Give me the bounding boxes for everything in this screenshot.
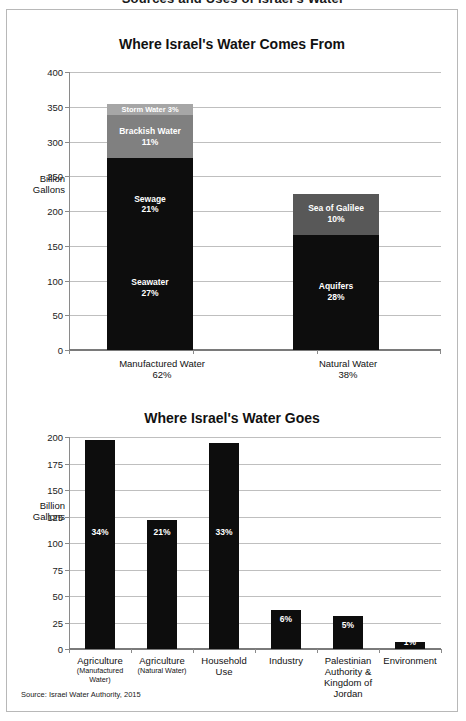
- chart2-bar[interactable]: 5%: [333, 616, 363, 649]
- gridline: [69, 437, 441, 438]
- chart2-xcat-line: Household: [193, 655, 255, 666]
- chart2-bar[interactable]: 6%: [271, 610, 301, 649]
- segment-sewage-pct: 21%: [107, 204, 193, 214]
- chart2-xcat-line: (Manufactured Water): [69, 666, 131, 684]
- chart1-bar-manufactured[interactable]: Seawater 27% Sewage 21% Brackish Water 1…: [107, 104, 193, 350]
- chart1-xcat-manufactured-name: Manufactured Water: [69, 358, 255, 369]
- page-title: Sources and Uses of Israel's Water: [0, 0, 466, 6]
- chart1-xcat-natural-name: Natural Water: [255, 358, 441, 369]
- ytick-label: 350: [47, 101, 63, 112]
- ytick-label: 50: [52, 591, 63, 602]
- chart1-xtick: [69, 350, 70, 354]
- chart2-xtick: [255, 649, 256, 653]
- segment-sewage-label-group: Sewage 21%: [107, 194, 193, 214]
- segment-storm-label: Storm Water 3%: [121, 105, 178, 114]
- chart1-title: Where Israel's Water Comes From: [7, 36, 457, 52]
- ytick-label: 0: [58, 644, 63, 655]
- chart2-bar-value-label: 21%: [147, 527, 177, 537]
- segment-seawater-pct: 27%: [141, 288, 158, 299]
- gridline: [69, 490, 441, 491]
- chart2-bar-value-label: 1%: [395, 637, 425, 647]
- segment-aquifers-pct: 28%: [327, 292, 344, 303]
- ytick-label: 75: [52, 564, 63, 575]
- segment-seawater[interactable]: Seawater 27%: [107, 158, 193, 350]
- chart2-xcat-line: Industry: [255, 655, 317, 666]
- chart2-bar-value-label: 33%: [209, 527, 239, 537]
- chart2-xtick: [193, 649, 194, 653]
- ytick-label: 300: [47, 136, 63, 147]
- segment-galilee-pct: 10%: [327, 214, 344, 225]
- source-note: Source: Israel Water Authority, 2015: [21, 690, 141, 699]
- chart2-xcat-line: Agriculture: [131, 655, 193, 666]
- segment-sea-of-galilee[interactable]: Sea of Galilee 10%: [293, 194, 379, 234]
- ytick-label: 200: [47, 432, 63, 443]
- gridline: [69, 570, 441, 571]
- chart1-xcat-manufactured-pct: 62%: [69, 369, 255, 380]
- ytick-label: 250: [47, 171, 63, 182]
- chart2-y-axis: [69, 437, 70, 649]
- chart2-yaxis-title-line1: Billion: [40, 500, 65, 511]
- ytick-label: 150: [47, 240, 63, 251]
- ytick-label: 200: [47, 206, 63, 217]
- ytick-label: 125: [47, 511, 63, 522]
- segment-storm-water[interactable]: Storm Water 3%: [107, 104, 193, 115]
- chart2-xcat-line: Palestinian: [317, 655, 379, 666]
- chart2-bar-value-label: 5%: [333, 620, 363, 630]
- gridline: [69, 72, 441, 73]
- segment-aquifers-label: Aquifers: [319, 281, 353, 292]
- chart1-xtick: [440, 350, 441, 354]
- figure-panel: Where Israel's Water Comes From Billion …: [6, 9, 458, 712]
- segment-aquifers[interactable]: Aquifers 28%: [293, 235, 379, 350]
- chart1-xcat-natural: Natural Water 38%: [255, 358, 441, 380]
- segment-sewage-label: Sewage: [107, 194, 193, 204]
- chart2-xtick: [131, 649, 132, 653]
- gridline: [69, 596, 441, 597]
- chart2-xtick: [441, 649, 442, 653]
- ytick-label: 25: [52, 617, 63, 628]
- chart2-bar[interactable]: 1%: [395, 642, 425, 649]
- gridline: [69, 464, 441, 465]
- chart2-bar-value-label: 34%: [85, 527, 115, 537]
- chart2-xtick: [69, 649, 70, 653]
- chart1-y-axis: [69, 72, 70, 350]
- chart1-plot-area: 050100150200250300350400 Seawater 27% Se…: [69, 72, 441, 350]
- chart2-bar-value-label: 6%: [271, 614, 301, 624]
- chart1-xtick: [193, 350, 194, 354]
- chart2-xcat: Environment: [379, 655, 441, 666]
- chart1-xcat-manufactured: Manufactured Water 62%: [69, 358, 255, 380]
- chart1-bar-natural[interactable]: Aquifers 28% Sea of Galilee 10%: [293, 194, 379, 350]
- chart1-xcat-natural-pct: 38%: [255, 369, 441, 380]
- chart2-xcat: Agriculture(Natural Water): [131, 655, 193, 675]
- segment-brackish-water[interactable]: Brackish Water 11%: [107, 115, 193, 158]
- chart2-xcat-line: Jordan: [317, 688, 379, 699]
- segment-brackish-label: Brackish Water: [119, 126, 181, 137]
- segment-seawater-label: Seawater: [131, 277, 168, 288]
- chart2-bar[interactable]: 33%: [209, 443, 239, 649]
- segment-galilee-label: Sea of Galilee: [308, 203, 364, 214]
- chart1-yaxis-title-line2: Gallons: [33, 184, 65, 195]
- gridline: [69, 543, 441, 544]
- chart2-title: Where Israel's Water Goes: [7, 410, 457, 426]
- chart2-xtick: [379, 649, 380, 653]
- chart2-xcat-line: Agriculture: [69, 655, 131, 666]
- gridline: [69, 517, 441, 518]
- chart2-plot-area: 0255075100125150175200 34%21%33%6%5%1%: [69, 437, 441, 649]
- gridline: [69, 623, 441, 624]
- chart2-xcat-line: Kingdom of: [317, 677, 379, 688]
- segment-brackish-pct: 11%: [142, 137, 159, 148]
- chart2-xcat-line: (Natural Water): [131, 666, 193, 675]
- chart2-bar[interactable]: 34%: [85, 440, 115, 649]
- ytick-label: 50: [52, 310, 63, 321]
- ytick-label: 0: [58, 345, 63, 356]
- chart2-xcat: HouseholdUse: [193, 655, 255, 677]
- ytick-label: 100: [47, 538, 63, 549]
- chart2-xcat-line: Authority &: [317, 666, 379, 677]
- chart2-bar[interactable]: 21%: [147, 520, 177, 649]
- chart2-xcat: Agriculture(Manufactured Water): [69, 655, 131, 684]
- chart2-xcat: PalestinianAuthority &Kingdom ofJordan: [317, 655, 379, 699]
- ytick-label: 150: [47, 485, 63, 496]
- chart2-xcat: Industry: [255, 655, 317, 666]
- ytick-label: 175: [47, 458, 63, 469]
- gridline: [69, 350, 441, 351]
- ytick-label: 100: [47, 275, 63, 286]
